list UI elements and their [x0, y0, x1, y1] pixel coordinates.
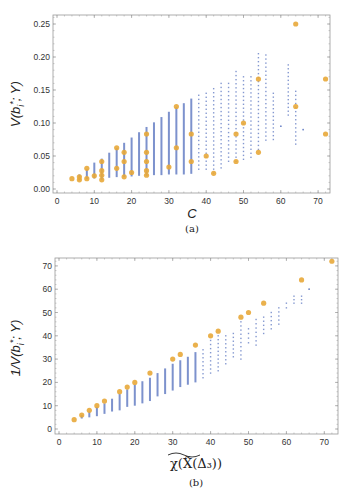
range-dot: [263, 329, 264, 330]
range-dot: [265, 91, 266, 92]
range-dot: [301, 299, 302, 300]
y-tick-label: 10: [43, 401, 53, 411]
range-dot: [258, 101, 259, 102]
range-dot: [258, 65, 259, 66]
y-axis-title-b: 1/V(bi*; Y): [8, 320, 26, 377]
range-dot: [220, 87, 221, 88]
range-dot: [206, 149, 207, 150]
highlight-point: [114, 166, 119, 171]
range-dot: [273, 104, 274, 105]
range-dot: [228, 140, 229, 141]
figure-canvas: 0102030405060700.000.050.100.150.200.25 …: [0, 0, 355, 492]
range-dot: [258, 61, 259, 62]
range-dot: [213, 132, 214, 133]
y-tick-label: 20: [43, 377, 53, 387]
range-dot: [220, 111, 221, 112]
range-bar: [111, 399, 113, 412]
range-dot: [258, 57, 259, 58]
y-tick-label: 0.10: [33, 118, 50, 128]
range-dot: [198, 119, 199, 120]
range-dot: [263, 333, 264, 334]
highlight-point: [147, 370, 152, 375]
range-dot: [210, 340, 211, 341]
y-tick-label: 0.15: [33, 85, 50, 95]
y-tick-label: 0: [47, 424, 52, 434]
range-dot: [225, 359, 226, 360]
range-dot: [220, 151, 221, 152]
range-bar: [119, 394, 121, 410]
range-dot: [213, 168, 214, 169]
x-tick-label: 70: [320, 437, 330, 447]
range-dot: [258, 105, 259, 106]
range-dot: [250, 153, 251, 154]
range-dot: [202, 357, 203, 358]
range-dot: [255, 344, 256, 345]
range-dot: [273, 112, 274, 113]
range-dot: [250, 84, 251, 85]
range-dot: [250, 128, 251, 129]
range-dot: [263, 321, 264, 322]
range-dot: [213, 100, 214, 101]
range-dot: [198, 95, 199, 96]
range-dot: [295, 123, 296, 124]
range-dot: [225, 351, 226, 352]
range-dot: [213, 88, 214, 89]
range-dot: [235, 124, 236, 125]
x-tick-label: 10: [90, 196, 100, 206]
range-dot: [250, 76, 251, 77]
range-dot: [258, 125, 259, 126]
range-dot: [220, 123, 221, 124]
range-dot: [213, 164, 214, 165]
range-dot: [288, 76, 289, 77]
highlight-point: [144, 173, 149, 178]
range-dot: [250, 145, 251, 146]
range-dot: [243, 88, 244, 89]
range-dot: [258, 97, 259, 98]
range-dot: [217, 370, 218, 371]
range-dot: [217, 347, 218, 348]
range-dot: [228, 148, 229, 149]
range-dot: [213, 156, 214, 157]
range-dot: [220, 139, 221, 140]
x-tick-label: 60: [276, 196, 286, 206]
highlight-point: [94, 403, 99, 408]
range-dot: [206, 137, 207, 138]
range-dot: [206, 101, 207, 102]
range-dot: [295, 127, 296, 128]
range-dot: [288, 72, 289, 73]
range-dot: [295, 111, 296, 112]
range-dot: [228, 124, 229, 125]
range-dot: [235, 87, 236, 88]
range-dot: [213, 104, 214, 105]
range-dot: [278, 311, 279, 312]
highlight-point: [241, 120, 246, 125]
range-dot: [293, 302, 294, 303]
range-dot: [217, 335, 218, 336]
range-dot: [210, 372, 211, 373]
range-bar: [183, 103, 185, 174]
highlight-point: [79, 412, 84, 417]
range-dot: [198, 169, 199, 170]
range-dot: [265, 127, 266, 128]
range-dot: [255, 336, 256, 337]
range-dot: [206, 97, 207, 98]
range-dot: [206, 125, 207, 126]
range-dot: [220, 131, 221, 132]
x-tick-label: 50: [239, 196, 249, 206]
y-tick-label: 0.00: [33, 184, 50, 194]
range-dot: [250, 112, 251, 113]
highlight-point: [114, 145, 119, 150]
range-dot: [202, 365, 203, 366]
range-dot: [233, 348, 234, 349]
range-dot: [233, 344, 234, 345]
highlight-points-a: [69, 21, 328, 182]
range-dot: [233, 356, 234, 357]
range-dot: [265, 71, 266, 72]
range-dot: [273, 139, 274, 140]
range-dot: [295, 95, 296, 96]
highlight-point: [299, 277, 304, 282]
range-dot: [265, 87, 266, 88]
range-dot: [288, 114, 289, 115]
highlight-point: [144, 159, 149, 164]
highlight-point: [166, 164, 171, 169]
